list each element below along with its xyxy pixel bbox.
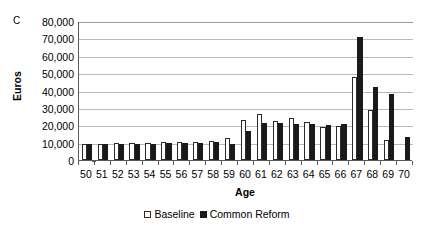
bar-group [302, 21, 318, 160]
y-axis-tick-label: 10,000 [20, 139, 74, 150]
x-axis-tick-labels: 5051525354555657585960616263646566676869… [78, 168, 412, 182]
y-axis-tick-labels: 80,00070,00060,00050,00040,00030,00020,0… [18, 0, 74, 229]
x-axis-tick-label: 56 [173, 168, 189, 182]
chart-figure: C Euros 80,00070,00060,00050,00040,00030… [0, 0, 434, 229]
bar-group [397, 21, 413, 160]
x-axis-tick-mark [173, 161, 174, 165]
x-axis-title: Age [78, 186, 412, 198]
bar-group [238, 21, 254, 160]
bar-common-reform [230, 144, 235, 160]
bar-common-reform [135, 144, 140, 160]
x-axis-tick-mark [189, 161, 190, 165]
x-axis-tick-label: 55 [158, 168, 174, 182]
x-axis-tick-label: 63 [285, 168, 301, 182]
x-axis-tick-mark [78, 161, 79, 165]
x-axis-tick-mark [269, 161, 270, 165]
bar-common-reform [326, 125, 331, 160]
y-axis-tick-label: 0 [20, 156, 74, 167]
bar-common-reform [87, 144, 92, 160]
x-axis-tick-label: 53 [126, 168, 142, 182]
bar-common-reform [405, 137, 410, 160]
x-axis-tick-mark [380, 161, 381, 165]
y-axis-tick-label: 50,000 [20, 69, 74, 80]
x-axis-tick-label: 67 [348, 168, 364, 182]
x-axis-tick-mark [142, 161, 143, 165]
x-axis-tick-mark [126, 161, 127, 165]
bar-common-reform [214, 142, 219, 160]
bar-common-reform [166, 143, 171, 160]
x-axis-tick-label: 70 [396, 168, 412, 182]
x-axis-tick-mark [364, 161, 365, 165]
bar-common-reform [246, 131, 251, 160]
bar-group [111, 21, 127, 160]
bar-group [95, 21, 111, 160]
bar-common-reform [198, 143, 203, 160]
legend-label: Common Reform [210, 208, 290, 220]
bar-group [190, 21, 206, 160]
x-axis-tick-label: 62 [269, 168, 285, 182]
x-axis-tick-mark [285, 161, 286, 165]
x-axis-tick-mark [110, 161, 111, 165]
x-axis-tick-mark [205, 161, 206, 165]
x-axis-tick-mark [253, 161, 254, 165]
x-axis-tick-label: 51 [94, 168, 110, 182]
x-axis-tick-mark [158, 161, 159, 165]
bar-group [349, 21, 365, 160]
bar-group [334, 21, 350, 160]
bar-group [222, 21, 238, 160]
bar-group [79, 21, 95, 160]
x-axis-tick-mark [94, 161, 95, 165]
x-axis-tick-mark [237, 161, 238, 165]
bar-common-reform [151, 144, 156, 161]
bar-group [159, 21, 175, 160]
legend-item: Common Reform [200, 208, 290, 220]
bar-common-reform [119, 144, 124, 160]
legend-label: Baseline [154, 208, 194, 220]
bar-group [286, 21, 302, 160]
x-axis-tick-label: 61 [253, 168, 269, 182]
x-axis-tick-label: 69 [380, 168, 396, 182]
x-axis-tick-label: 66 [333, 168, 349, 182]
bar-common-reform [182, 143, 187, 160]
legend-item: Baseline [144, 208, 194, 220]
x-axis-tick-mark [348, 161, 349, 165]
x-axis-tick-label: 68 [364, 168, 380, 182]
bar-common-reform [373, 87, 378, 160]
bar-common-reform [262, 123, 267, 160]
x-axis-tick-label: 52 [110, 168, 126, 182]
bar-group [318, 21, 334, 160]
x-axis-tick-mark [412, 161, 413, 165]
bar-common-reform [310, 124, 315, 160]
x-axis-tick-mark [332, 161, 333, 165]
bar-group [270, 21, 286, 160]
x-axis-tick-mark [396, 161, 397, 165]
bar-group [254, 21, 270, 160]
x-axis-tick-mark [301, 161, 302, 165]
bar-group [174, 21, 190, 160]
x-axis-tick-label: 54 [142, 168, 158, 182]
bar-group [365, 21, 381, 160]
chart-legend: BaselineCommon Reform [0, 208, 434, 220]
y-axis-tick-label: 60,000 [20, 52, 74, 63]
x-axis-tick-label: 60 [237, 168, 253, 182]
y-axis-tick-label: 40,000 [20, 87, 74, 98]
bar-common-reform [278, 123, 283, 160]
x-axis-tick-mark [221, 161, 222, 165]
plot-area [78, 22, 412, 161]
legend-swatch-icon [144, 211, 151, 218]
x-axis-tick-mark [317, 161, 318, 165]
x-axis-tick-marks [78, 161, 412, 166]
bar-common-reform [357, 37, 362, 160]
x-axis-tick-label: 58 [205, 168, 221, 182]
bar-group [206, 21, 222, 160]
x-axis-tick-label: 57 [189, 168, 205, 182]
bar-group [127, 21, 143, 160]
x-axis-tick-label: 59 [221, 168, 237, 182]
bar-common-reform [103, 144, 108, 160]
bar-common-reform [294, 124, 299, 160]
bar-common-reform [341, 124, 346, 160]
x-axis-tick-label: 64 [301, 168, 317, 182]
bar-series-container [79, 21, 413, 160]
x-axis-tick-label: 50 [78, 168, 94, 182]
y-axis-tick-label: 70,000 [20, 34, 74, 45]
